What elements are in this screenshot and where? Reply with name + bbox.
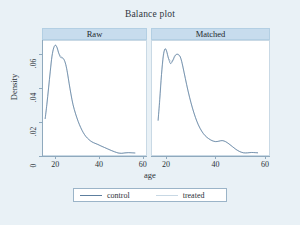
x-tick-label: 60 (133, 160, 153, 169)
y-axis-line (42, 40, 43, 156)
y-tick-mark (39, 156, 42, 157)
plot-area-raw (43, 41, 146, 155)
y-tick-label: .06 (29, 52, 38, 74)
panel-header-raw: Raw (42, 28, 147, 40)
x-tick-label: 60 (255, 160, 275, 169)
density-curve-treated (158, 49, 258, 153)
x-tick-label: 20 (156, 160, 176, 169)
panel-header-matched: Matched (151, 28, 270, 40)
x-tick-mark (143, 156, 144, 159)
x-axis-line-matched (151, 156, 270, 157)
x-axis-line-raw (42, 156, 147, 157)
y-tick-mark (39, 122, 42, 123)
balance-plot-figure: Balance plot Raw Matched 2040602040600.0… (0, 0, 300, 225)
legend-label-control: control (107, 191, 130, 200)
plot-area-matched (152, 41, 269, 155)
density-curve-control (158, 49, 258, 153)
legend-item-control[interactable]: control (74, 189, 130, 201)
legend: control treated (73, 188, 227, 202)
x-tick-mark (166, 156, 167, 159)
x-tick-label: 40 (205, 160, 225, 169)
plot-panel-matched (151, 40, 270, 156)
x-tick-mark (215, 156, 216, 159)
density-curve-treated (45, 45, 135, 153)
x-tick-mark (265, 156, 266, 159)
x-tick-mark (55, 156, 56, 159)
legend-label-treated: treated (183, 191, 205, 200)
legend-line-icon-control (80, 195, 102, 196)
y-tick-label: .02 (29, 120, 38, 142)
legend-line-icon-treated (156, 195, 178, 196)
plot-panel-raw (42, 40, 147, 156)
x-tick-label: 40 (89, 160, 109, 169)
x-axis-title: age (0, 170, 300, 180)
y-axis-title: Density (9, 57, 19, 117)
y-tick-mark (39, 54, 42, 55)
page-title: Balance plot (0, 9, 300, 19)
x-tick-label: 20 (45, 160, 65, 169)
y-tick-mark (39, 88, 42, 89)
legend-item-treated[interactable]: treated (130, 189, 205, 201)
density-curve-control (45, 45, 135, 153)
y-tick-label: .04 (29, 86, 38, 108)
x-tick-mark (99, 156, 100, 159)
